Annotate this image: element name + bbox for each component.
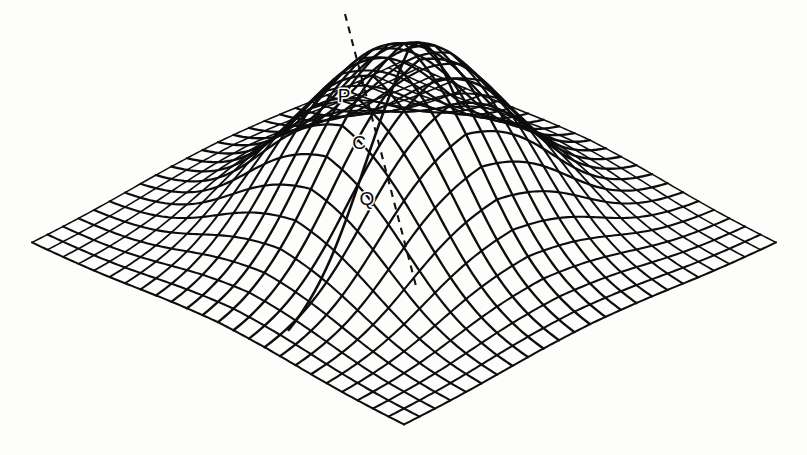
point-label-p: P	[338, 85, 351, 106]
point-label-c: C	[352, 132, 366, 153]
point-label-q: Q	[360, 188, 375, 209]
surface-plot-figure: PCQ	[0, 0, 807, 455]
figure-background	[0, 0, 807, 455]
